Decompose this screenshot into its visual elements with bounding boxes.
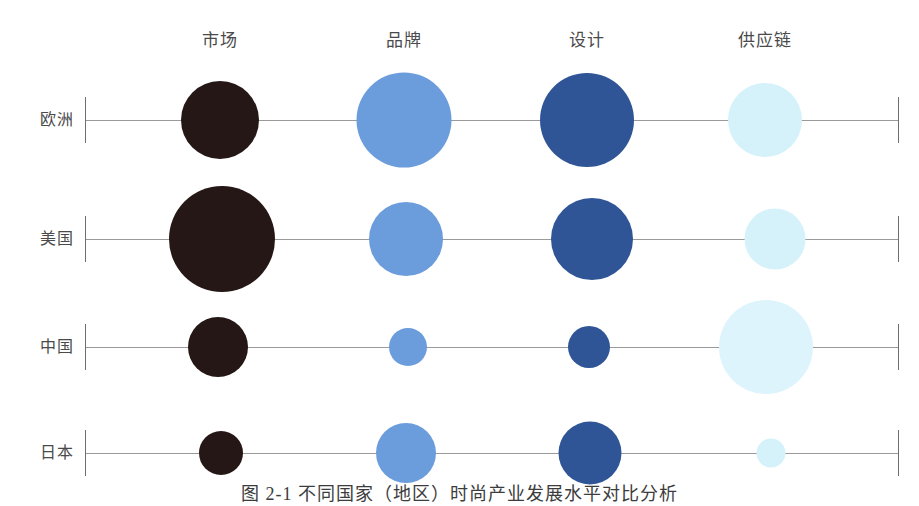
axis-cap-right-japan bbox=[898, 430, 899, 476]
axis-cap-right-europe bbox=[898, 97, 899, 143]
column-header-brand: 品牌 bbox=[386, 30, 422, 52]
bubble bbox=[357, 73, 452, 168]
row-label-usa: 美国 bbox=[40, 229, 74, 249]
row-label-china: 中国 bbox=[40, 337, 74, 357]
axis-cap-right-usa bbox=[898, 216, 899, 262]
row-label-europe: 欧洲 bbox=[40, 110, 74, 130]
figure-caption: 图 2-1 不同国家（地区）时尚产业发展水平对比分析 bbox=[0, 482, 919, 506]
bubble bbox=[719, 300, 813, 394]
bubble bbox=[369, 202, 443, 276]
row-label-japan: 日本 bbox=[40, 443, 74, 463]
bubble bbox=[745, 209, 806, 270]
bubble bbox=[389, 328, 427, 366]
column-header-design: 设计 bbox=[569, 30, 605, 52]
axis-cap-right-china bbox=[898, 324, 899, 370]
bubble bbox=[559, 422, 622, 485]
bubble bbox=[181, 81, 259, 159]
axis-cap-left-china bbox=[85, 324, 86, 370]
bubble bbox=[188, 317, 248, 377]
axis-cap-left-usa bbox=[85, 216, 86, 262]
axis-cap-left-japan bbox=[85, 430, 86, 476]
axis-cap-left-europe bbox=[85, 97, 86, 143]
bubble bbox=[540, 73, 634, 167]
column-header-market: 市场 bbox=[202, 30, 238, 52]
bubble bbox=[169, 186, 275, 292]
bubble bbox=[757, 439, 786, 468]
bubble bbox=[376, 423, 436, 483]
bubble bbox=[551, 198, 633, 280]
bubble bbox=[728, 83, 802, 157]
bubble bbox=[568, 326, 610, 368]
bubble bbox=[199, 431, 243, 475]
column-header-supply-chain: 供应链 bbox=[738, 30, 792, 52]
